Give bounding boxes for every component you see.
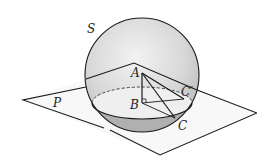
label-s: S: [87, 22, 95, 36]
label-p: P: [52, 96, 62, 110]
label-c-prime: C′: [181, 85, 193, 99]
label-a: A: [130, 66, 140, 80]
label-c: C: [178, 119, 187, 133]
label-b: B: [129, 98, 139, 112]
diagram-canvas: S P A B C C′: [0, 0, 257, 168]
sphere-plane-diagram: S P A B C C′: [0, 0, 257, 168]
